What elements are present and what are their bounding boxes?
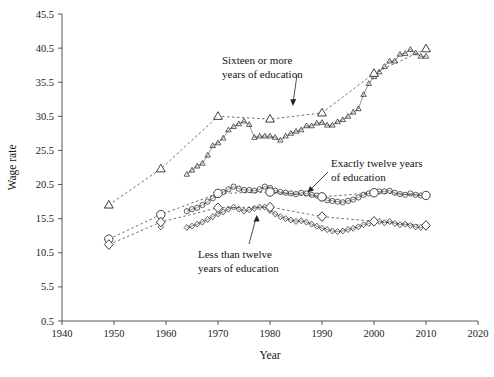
data-point-diamond (156, 217, 165, 227)
data-point-triangle (215, 140, 220, 145)
data-point-triangle (246, 122, 251, 127)
data-point-circle (214, 189, 222, 197)
data-point-triangle (408, 47, 413, 52)
y-tick-label: 10.5 (36, 247, 54, 258)
data-point-triangle (226, 127, 231, 132)
y-tick-label: 35.5 (36, 77, 54, 88)
data-point-triangle (319, 120, 324, 125)
less-arrow-head (254, 215, 260, 222)
x-tick-label: 1950 (104, 328, 125, 339)
x-tick-label: 2010 (416, 328, 437, 339)
chart-svg: 0.55.510.515.520.525.530.535.540.545.519… (0, 0, 494, 377)
chart-figure: 0.55.510.515.520.525.530.535.540.545.519… (0, 0, 494, 377)
data-point-triangle (156, 164, 165, 172)
data-point-triangle (418, 53, 423, 58)
data-point-triangle (423, 53, 428, 58)
y-tick-label: 5.5 (41, 281, 54, 292)
data-point-diamond (422, 221, 431, 231)
series-diamond (104, 202, 430, 249)
data-point-circle (370, 189, 378, 197)
data-point-diamond (370, 217, 379, 227)
y-tick-label: 0.5 (41, 316, 54, 327)
sixteen-arrow-head (290, 99, 296, 106)
x-tick-label: 1980 (260, 328, 281, 339)
x-tick-label: 2020 (468, 328, 489, 339)
data-point-triangle (241, 118, 246, 123)
twelve-arrow-line (310, 172, 328, 190)
y-tick-label: 40.5 (36, 43, 54, 54)
data-point-triangle (257, 133, 262, 138)
data-point-triangle (304, 123, 309, 128)
data-point-triangle (422, 44, 431, 52)
y-tick-label: 20.5 (36, 179, 54, 190)
x-tick-label: 2000 (364, 328, 385, 339)
data-point-triangle (266, 114, 275, 122)
annotation-sixteen-line1: Sixteen or more (222, 54, 292, 66)
data-point-triangle (402, 51, 407, 56)
annotation-sixteen-line2: years of education (222, 68, 303, 80)
y-tick-label: 25.5 (36, 145, 54, 156)
x-tick-label: 1990 (312, 328, 333, 339)
y-tick-label: 30.5 (36, 111, 54, 122)
data-point-circle (266, 188, 274, 196)
x-axis-title: Year (259, 349, 280, 361)
y-tick-label: 15.5 (36, 213, 54, 224)
annotation-twelve-line2: of education (331, 171, 386, 183)
x-tick-label: 1960 (156, 328, 177, 339)
data-point-circle (422, 191, 430, 199)
x-tick-label: 1970 (208, 328, 229, 339)
annotation-less-line1: Less than twelve (198, 248, 272, 260)
data-point-circle (184, 209, 189, 214)
data-point-triangle (184, 171, 189, 176)
data-point-triangle (387, 58, 392, 63)
y-axis-title: Wage rate (6, 145, 19, 191)
data-point-triangle (330, 122, 335, 127)
data-point-triangle (104, 200, 113, 208)
data-point-circle (318, 193, 326, 201)
x-tick-label: 1940 (52, 328, 73, 339)
less-arrow-line (249, 218, 256, 244)
data-point-triangle (345, 113, 350, 118)
data-point-triangle (318, 108, 327, 116)
data-point-triangle (350, 109, 355, 114)
data-point-triangle (267, 133, 272, 138)
series-circle (105, 184, 431, 243)
data-point-triangle (262, 133, 267, 138)
annotation-twelve-line1: Exactly twelve years (331, 157, 423, 169)
data-point-diamond (318, 212, 327, 222)
data-point-triangle (214, 112, 223, 120)
data-point-triangle (340, 117, 345, 122)
trend-dashed-line (109, 207, 426, 245)
annotation-layer: Sixteen or more years of education Exact… (198, 54, 423, 274)
data-point-triangle (298, 127, 303, 132)
data-point-triangle (189, 167, 194, 172)
y-tick-label: 45.5 (36, 9, 54, 20)
annotation-less-line2: years of education (198, 262, 279, 274)
